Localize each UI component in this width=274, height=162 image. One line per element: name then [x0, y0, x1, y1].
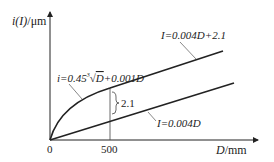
gap-brace — [112, 92, 119, 114]
y-axis-label: i(I)/μm — [12, 14, 47, 28]
x-tick-500: 500 — [101, 143, 118, 155]
tolerance-unit-diagram: i(I)/μm D/mm 0 500 i=0.453√D+0.001D I=0.… — [0, 0, 274, 162]
gap-label: 2.1 — [121, 97, 135, 109]
lower-leader — [148, 112, 156, 121]
origin-label: 0 — [47, 143, 53, 155]
curve-leader — [69, 84, 82, 99]
x-axis-label: D/mm — [215, 143, 247, 157]
upper-line-formula: I=0.004D+2.1 — [160, 29, 226, 41]
lower-line — [50, 83, 234, 140]
curve-formula: i=0.453√D+0.001D — [57, 72, 144, 84]
tolerance-unit-curve — [50, 88, 110, 140]
lower-line-formula: I=0.004D — [156, 117, 201, 129]
upper-leader — [180, 42, 196, 59]
